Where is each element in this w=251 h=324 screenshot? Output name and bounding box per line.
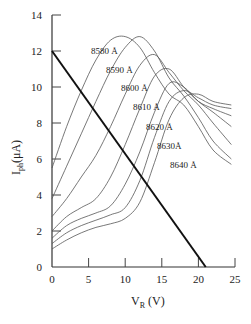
curve-wavelength-label: 8590 Å bbox=[106, 65, 133, 75]
photocurrent-curve bbox=[52, 94, 231, 249]
curves bbox=[52, 36, 231, 267]
x-tick-label: 20 bbox=[193, 273, 205, 285]
chart: 051015202502468101214 8580 Å8590 Å8600 Å… bbox=[0, 0, 251, 324]
x-tick-label: 10 bbox=[120, 273, 132, 285]
x-tick-label: 25 bbox=[230, 273, 242, 285]
curve-wavelength-label: 8630Å bbox=[157, 141, 182, 151]
curve-wavelength-label: 8640 Å bbox=[170, 160, 197, 170]
y-tick-label: 4 bbox=[37, 189, 43, 201]
curve-wavelength-label: 8620 Å bbox=[146, 122, 173, 132]
axes: 051015202502468101214 bbox=[31, 9, 241, 285]
y-tick-label: 10 bbox=[31, 81, 43, 93]
curve-labels: 8580 Å8590 Å8600 Å8610 Å8620 Å8630Å8640 … bbox=[91, 46, 197, 170]
y-axis-title: Iph(μA) bbox=[9, 140, 25, 175]
curve-wavelength-label: 8580 Å bbox=[91, 46, 118, 56]
photocurrent-curve bbox=[52, 54, 231, 216]
y-tick-label: 12 bbox=[31, 45, 42, 57]
curve-wavelength-label: 8610 Å bbox=[133, 102, 160, 112]
x-tick-label: 5 bbox=[86, 273, 92, 285]
photocurrent-curve bbox=[52, 37, 231, 199]
curve-wavelength-label: 8600 Å bbox=[121, 83, 148, 93]
photocurrent-curve bbox=[52, 91, 231, 244]
y-tick-label: 14 bbox=[31, 9, 43, 21]
y-tick-label: 2 bbox=[37, 225, 43, 237]
y-tick-label: 0 bbox=[37, 261, 43, 273]
x-axis-title: VR (V) bbox=[131, 294, 165, 310]
y-tick-label: 6 bbox=[37, 153, 43, 165]
x-tick-label: 0 bbox=[49, 273, 55, 285]
y-tick-label: 8 bbox=[37, 117, 43, 129]
x-tick-label: 15 bbox=[156, 273, 168, 285]
